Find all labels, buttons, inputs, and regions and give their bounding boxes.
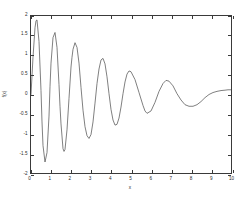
y-tick-mark-right [228, 155, 231, 156]
x-tick-label: 4 [109, 177, 112, 182]
plot-area [30, 15, 232, 174]
y-tick-mark-right [228, 95, 231, 96]
curve-line [31, 16, 231, 173]
x-tick-label: 6 [149, 177, 152, 182]
y-tick-mark-right [228, 75, 231, 76]
x-tick-mark-top [51, 16, 52, 19]
x-tick-mark-top [212, 16, 213, 19]
x-tick-label: 1 [48, 177, 51, 182]
x-tick-mark [111, 170, 112, 173]
x-tick-label: 5 [129, 177, 132, 182]
y-tick-mark [31, 95, 34, 96]
x-axis-title: x [129, 186, 131, 191]
x-tick-mark [172, 170, 173, 173]
x-tick-mark-top [132, 16, 133, 19]
x-tick-label: 0 [28, 177, 31, 182]
y-tick-label: 2 [25, 12, 28, 17]
y-tick-label: -1 [23, 131, 27, 136]
x-tick-label: 8 [190, 177, 193, 182]
y-tick-mark-right [228, 16, 231, 17]
y-axis-title: f(x) [3, 91, 8, 98]
x-tick-label: 7 [170, 177, 173, 182]
x-tick-mark-top [192, 16, 193, 19]
x-tick-mark-top [233, 16, 234, 19]
x-tick-mark-top [91, 16, 92, 19]
y-tick-mark-right [228, 115, 231, 116]
y-tick-label: 1.5 [21, 32, 27, 37]
y-tick-mark [31, 55, 34, 56]
y-tick-mark-right [228, 55, 231, 56]
x-tick-mark [31, 170, 32, 173]
x-tick-label: 10 [229, 177, 234, 182]
y-tick-label: 0.5 [21, 72, 27, 77]
y-tick-mark-right [228, 135, 231, 136]
chart-screenshot: 012345678910 21.510.50-0.5-1-1.5-2 x f(x… [0, 0, 243, 200]
x-tick-label: 2 [69, 177, 72, 182]
x-tick-label: 3 [89, 177, 92, 182]
x-tick-mark [233, 170, 234, 173]
y-tick-mark-right [228, 35, 231, 36]
y-tick-label: 0 [25, 92, 28, 97]
x-tick-mark [132, 170, 133, 173]
x-tick-mark-top [71, 16, 72, 19]
x-tick-mark [71, 170, 72, 173]
y-tick-mark [31, 75, 34, 76]
y-tick-mark [31, 35, 34, 36]
x-tick-label: 9 [210, 177, 213, 182]
y-tick-label: -0.5 [20, 112, 28, 117]
x-tick-mark [192, 170, 193, 173]
y-tick-mark [31, 115, 34, 116]
y-tick-label: -2 [23, 171, 27, 176]
y-tick-mark [31, 16, 34, 17]
x-tick-mark [91, 170, 92, 173]
x-tick-mark-top [111, 16, 112, 19]
y-tick-mark [31, 135, 34, 136]
x-tick-mark [212, 170, 213, 173]
x-tick-mark-top [172, 16, 173, 19]
x-tick-mark-top [152, 16, 153, 19]
x-tick-mark [51, 170, 52, 173]
y-tick-label: -1.5 [20, 151, 28, 156]
y-tick-mark [31, 155, 34, 156]
y-tick-label: 1 [25, 52, 28, 57]
x-tick-mark [152, 170, 153, 173]
